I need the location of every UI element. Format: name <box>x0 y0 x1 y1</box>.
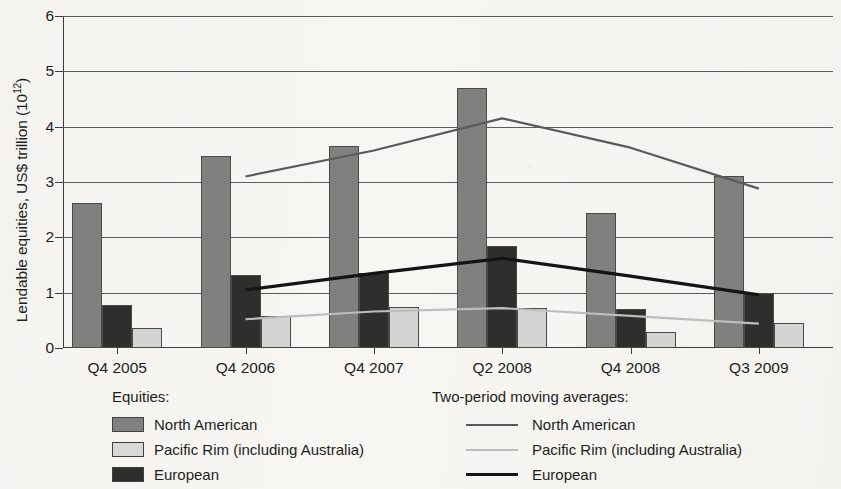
x-tick-mark <box>246 348 247 354</box>
bar <box>72 203 102 348</box>
legend-item-label: Pacific Rim (including Australia) <box>154 441 364 458</box>
x-tick-mark <box>374 348 375 354</box>
x-tick-mark <box>117 348 118 354</box>
x-tick-label: Q4 2005 <box>87 359 146 377</box>
y-axis-label-suffix: ) <box>13 78 30 83</box>
bar <box>487 246 517 348</box>
y-tick-label: 5 <box>45 62 54 80</box>
y-axis-label-text: Lendable equities, US$ trillion (10 <box>13 94 30 322</box>
x-tick-label: Q3 2009 <box>729 359 788 377</box>
x-tick-label: Q4 2006 <box>216 359 275 377</box>
bar <box>389 307 419 348</box>
legend-equities-rows: North AmericanPacific Rim (including Aus… <box>112 412 364 487</box>
y-axis-label-exponent: 12 <box>12 83 23 94</box>
bar <box>774 323 804 348</box>
legend-swatch-icon <box>112 442 144 457</box>
y-tick-mark <box>55 237 63 238</box>
y-tick-label: 4 <box>45 118 54 136</box>
legend-line-icon <box>466 449 518 451</box>
y-tick-mark <box>55 16 63 17</box>
bar <box>132 328 162 348</box>
legend-moving-averages-rows: North AmericanPacific Rim (including Aus… <box>432 412 742 487</box>
y-tick-label: 0 <box>45 339 54 357</box>
bar <box>457 88 487 348</box>
legend-item: North American <box>112 412 364 437</box>
x-tick-mark <box>631 348 632 354</box>
gridline <box>63 16 833 17</box>
y-axis-label: Lendable equities, US$ trillion (1012) <box>4 24 32 376</box>
legend-item-label: European <box>154 466 219 483</box>
bar <box>744 293 774 348</box>
x-tick-label: Q4 2007 <box>344 359 403 377</box>
y-tick-label: 1 <box>45 284 54 302</box>
legend-item: European <box>432 462 742 487</box>
legend-item: European <box>112 462 364 487</box>
legend-equities-title: Equities: <box>112 388 364 405</box>
y-tick-mark <box>55 71 63 72</box>
legend-item: North American <box>432 412 742 437</box>
x-tick-label: Q2 2008 <box>472 359 531 377</box>
bar <box>102 305 132 348</box>
y-tick-label: 6 <box>45 7 54 25</box>
legend-item-label: European <box>532 466 597 483</box>
x-tick-mark <box>502 348 503 354</box>
y-tick-mark <box>55 293 63 294</box>
gridline <box>63 71 833 72</box>
legend-item-label: Pacific Rim (including Australia) <box>532 441 742 458</box>
x-tick-mark <box>759 348 760 354</box>
bar <box>231 275 261 348</box>
y-tick-label: 3 <box>45 173 54 191</box>
legend-swatch-icon <box>112 467 144 482</box>
bar <box>714 176 744 348</box>
y-tick-mark <box>55 182 63 183</box>
legend-line-icon <box>466 473 518 476</box>
legend-item-label: North American <box>532 416 635 433</box>
bar <box>646 332 676 348</box>
chart-page: Lendable equities, US$ trillion (1012) 0… <box>0 0 841 489</box>
y-tick-mark <box>55 348 63 349</box>
legend-item-label: North American <box>154 416 257 433</box>
bar <box>201 156 231 348</box>
legend-moving-averages-title: Two-period moving averages: <box>432 388 742 405</box>
x-tick-label: Q4 2008 <box>601 359 660 377</box>
legend-item: Pacific Rim (including Australia) <box>432 437 742 462</box>
legend-moving-averages: Two-period moving averages: North Americ… <box>432 388 742 487</box>
bar <box>616 309 646 348</box>
moving-average-line <box>246 118 759 188</box>
gridline <box>63 127 833 128</box>
y-tick-mark <box>55 127 63 128</box>
bar <box>329 146 359 348</box>
bar <box>586 213 616 348</box>
bar <box>359 273 389 348</box>
plot-area: 0123456 Q4 2005Q4 2006Q4 2007Q2 2008Q4 2… <box>63 16 833 348</box>
legend-line-icon <box>466 424 518 426</box>
legend-item: Pacific Rim (including Australia) <box>112 437 364 462</box>
legend-swatch-icon <box>112 417 144 432</box>
bar <box>261 316 291 348</box>
bar <box>517 308 547 348</box>
y-tick-label: 2 <box>45 228 54 246</box>
legend-equities: Equities: North AmericanPacific Rim (inc… <box>112 388 364 487</box>
